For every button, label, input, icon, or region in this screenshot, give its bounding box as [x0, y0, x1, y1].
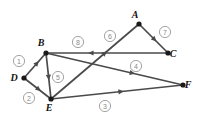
graph-svg: ABCDEF 12345678 [0, 0, 199, 122]
vertex-B[interactable]: B [37, 37, 49, 56]
edges-layer [24, 24, 183, 99]
vertices-layer: ABCDEF [9, 9, 191, 113]
edge-badge-label-1: 1 [17, 58, 21, 65]
edge-arrowhead-8 [88, 50, 93, 55]
edge-line-4 [46, 53, 183, 85]
vertex-dot-A [136, 21, 141, 26]
edge-3[interactable] [51, 85, 183, 99]
vertex-E[interactable]: E [45, 96, 54, 113]
edge-badge-7[interactable]: 7 [159, 26, 170, 37]
vertex-C[interactable]: C [165, 48, 176, 59]
edge-badge-label-2: 2 [27, 95, 31, 102]
vertex-label-C: C [170, 48, 177, 59]
edge-badge-6[interactable]: 6 [104, 30, 115, 41]
vertex-F[interactable]: F [180, 79, 191, 90]
vertex-dot-D [21, 75, 26, 80]
edge-badge-label-5: 5 [56, 74, 60, 81]
edge-line-3 [51, 85, 183, 99]
edge-badge-label-7: 7 [163, 29, 167, 36]
edge-badge-5[interactable]: 5 [52, 71, 63, 82]
edge-6[interactable] [51, 24, 139, 99]
edge-line-6 [51, 24, 139, 99]
edge-badge-label-4: 4 [134, 63, 138, 70]
edge-badge-label-6: 6 [108, 33, 112, 40]
diagram-canvas: ABCDEF 12345678 [0, 0, 199, 122]
edge-badge-2[interactable]: 2 [23, 92, 34, 103]
vertex-dot-B [43, 50, 48, 55]
edge-badge-4[interactable]: 4 [130, 60, 141, 71]
edge-5[interactable] [46, 53, 51, 99]
vertex-label-B: B [37, 37, 45, 48]
vertex-label-E: E [45, 102, 53, 113]
edge-badge-label-8: 8 [76, 39, 80, 46]
edge-4[interactable] [46, 53, 183, 85]
vertex-D[interactable]: D [9, 72, 26, 83]
edge-1[interactable] [24, 53, 46, 78]
vertex-label-A: A [131, 9, 139, 20]
edge-badge-label-3: 3 [103, 103, 107, 110]
vertex-dot-E [48, 96, 53, 101]
edge-badge-1[interactable]: 1 [13, 55, 24, 66]
vertex-label-F: F [184, 79, 192, 90]
edge-line-1 [24, 53, 46, 78]
edge-badge-8[interactable]: 8 [72, 36, 83, 47]
edge-badge-3[interactable]: 3 [99, 100, 110, 111]
vertex-label-D: D [9, 72, 17, 83]
vertex-A[interactable]: A [131, 9, 142, 27]
